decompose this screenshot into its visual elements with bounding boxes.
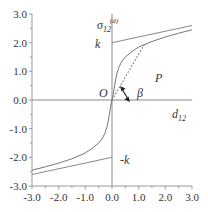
y-tick-label: 0.0 [13,94,27,106]
point-p-label: P [154,71,163,85]
y-tick-labels: 3.0 2.0 1.0 0.0 -1.0 -2.0 -3.0 [10,8,28,192]
x-tick-label: 3.0 [185,191,199,203]
origin-label: O [99,86,108,100]
y-tick-label: 1.0 [13,65,27,77]
lower-asymptote-line [32,157,112,174]
x-axis-label: d12 [172,107,186,123]
chart: 3.0 2.0 1.0 0.0 -1.0 -2.0 -3.0 -3.0 -2.0… [0,0,208,212]
angle-beta-label: β [136,86,143,100]
x-tick-label: -3.0 [23,191,41,203]
y-tick-label: -1.0 [10,123,28,135]
x-tick-label: 2.0 [158,191,172,203]
neg-k-label: -k [120,153,130,167]
upper-asymptote-line [112,26,192,43]
x-tick-label: -1.0 [77,191,95,203]
y-tick-label: -2.0 [10,151,28,163]
x-tick-label: 0.0 [105,191,119,203]
x-tick-label: -2.0 [50,191,68,203]
y-tick-label: 2.0 [13,37,27,49]
k-label: k [95,37,101,51]
x-tick-labels: -3.0 -2.0 -1.0 0.0 1.0 2.0 3.0 [23,191,199,203]
x-tick-label: 1.0 [132,191,146,203]
y-tick-label: 3.0 [13,8,27,20]
y-axis-label: σ12(d) [97,17,119,34]
